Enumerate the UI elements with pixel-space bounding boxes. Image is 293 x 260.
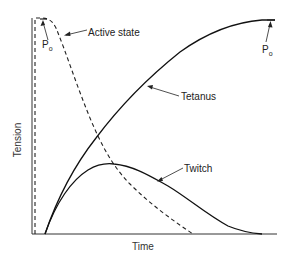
figure-canvas: Po Active state Po Tetanus Twitch Tensio… <box>0 0 293 260</box>
tetanus-label: Tetanus <box>181 91 216 102</box>
active-state-arrowhead <box>64 32 71 37</box>
active-state-label: Active state <box>88 27 140 38</box>
po-right-arrowhead <box>268 21 273 28</box>
y-axis-label: Tension <box>12 123 23 157</box>
tetanus-curve <box>45 20 275 234</box>
po-left-label: Po <box>42 39 53 52</box>
po-right-label: Po <box>262 44 273 57</box>
tetanus-leader <box>150 87 179 96</box>
twitch-arrowhead <box>157 177 163 182</box>
tetanus-arrowhead <box>147 85 153 90</box>
twitch-label: Twitch <box>184 163 212 174</box>
po-left-arrowhead <box>41 20 46 26</box>
twitch-leader <box>160 168 183 180</box>
active-state-curve <box>35 18 193 234</box>
x-axis-label: Time <box>132 241 154 252</box>
twitch-curve <box>45 164 262 234</box>
